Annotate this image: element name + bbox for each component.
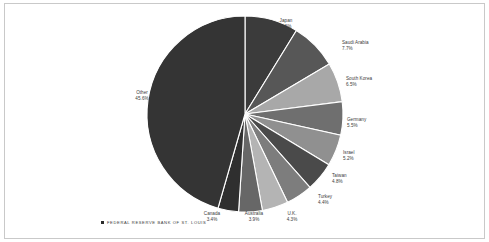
- pie-slice-label-name: Other: [135, 90, 148, 96]
- pie-slice-label-name: Japan: [280, 18, 293, 24]
- pie-slice-label-name: Saudi Arabia: [342, 40, 369, 46]
- pie-slice-label-value: 45.6%: [135, 96, 148, 102]
- pie-slice-label: Japan8.8%: [280, 18, 293, 29]
- chart-figure: Japan8.8%Saudi Arabia7.7%South Korea6.5%…: [0, 0, 489, 242]
- source-attribution: FEDERAL RESERVE BANK OF ST. LOUIS: [101, 220, 206, 225]
- pie-slice-label-name: Taiwan: [332, 173, 347, 179]
- pie-slice-label: Germany5.5%: [347, 117, 366, 128]
- pie-slice-label: Turkey4.4%: [318, 194, 332, 205]
- pie-slice-label-value: 3.9%: [245, 217, 263, 223]
- pie-slice-label-name: Germany: [347, 117, 366, 123]
- pie-slice-label-value: 8.8%: [280, 24, 293, 30]
- source-label: FEDERAL RESERVE BANK OF ST. LOUIS: [107, 220, 206, 225]
- pie-slice-label: Taiwan4.8%: [332, 173, 347, 184]
- pie-slice-label: South Korea6.5%: [346, 76, 372, 87]
- pie-plot-area: Japan8.8%Saudi Arabia7.7%South Korea6.5%…: [5, 4, 486, 240]
- pie-slice-label-value: 4.8%: [332, 179, 347, 185]
- pie-slice-label-name: U.K.: [287, 211, 298, 217]
- pie-slice-label-value: 7.7%: [342, 46, 369, 52]
- pie-slice-label-value: 5.5%: [347, 123, 366, 129]
- pie-slice-label-value: 4.3%: [287, 217, 298, 223]
- pie-slice-label: U.K.4.3%: [287, 211, 298, 222]
- pie-slice-label-value: 6.5%: [346, 82, 372, 88]
- pie-slice-label: Israel5.2%: [343, 150, 355, 161]
- pie-slice-label-name: Israel: [343, 150, 355, 156]
- pie-slice-label-value: 5.2%: [343, 156, 355, 162]
- square-marker-icon: [101, 221, 104, 224]
- pie-slice-group: [147, 16, 343, 212]
- chart-frame: Japan8.8%Saudi Arabia7.7%South Korea6.5%…: [4, 3, 485, 239]
- pie-slice-label-name: South Korea: [346, 76, 372, 82]
- pie-slice-label: Other45.6%: [135, 90, 148, 101]
- pie-slice-label-value: 4.4%: [318, 200, 332, 206]
- pie-chart-svg: [5, 4, 486, 240]
- pie-slice-label-name: Turkey: [318, 194, 332, 200]
- pie-slice-label: Saudi Arabia7.7%: [342, 40, 369, 51]
- pie-slice-label-name: Australia: [245, 211, 263, 217]
- pie-slice-label: Australia3.9%: [245, 211, 263, 222]
- pie-slice-label-name: Canada: [204, 211, 220, 217]
